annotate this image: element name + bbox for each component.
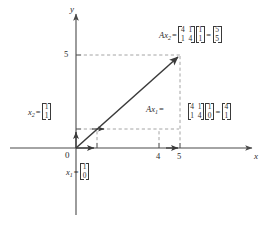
column-vector-x2: 1 1 [42,103,51,120]
equals-sign: = [172,30,177,40]
figure-canvas: y x 0 5 4 5 x2 = 1 1 x1 = 1 0 Ax2 = [0,0,273,235]
equation-ax1-lhs: Ax1 = [146,104,165,114]
y-axis-label: y [70,5,74,14]
equation-lhs-ax2: Ax2 [159,30,171,40]
x-axis-label: x [254,152,258,161]
equals-sign: = [216,107,221,117]
result-vector: 5 5 [213,26,222,43]
equals-sign: = [74,167,79,177]
x-tick-label-4: 4 [156,152,160,161]
equation-lhs-ax1: Ax1 [146,104,158,114]
equals-sign: = [159,104,164,114]
column-vector-x1: 1 0 [80,163,89,180]
equals-sign: = [36,107,41,117]
vector-label-x1: x1 = 1 0 [66,163,90,180]
equation-ax2: Ax2 = 4 1 1 4 1 1 = 5 5 [159,26,222,43]
origin-label: 0 [65,151,70,160]
vector-arrow-ax2 [76,57,178,148]
unit-vector-arrows [76,129,178,148]
vector-label-x2: x2 = 1 1 [28,103,52,120]
vector-name-x1: x1 [66,167,73,177]
matrix-a: 4 1 1 4 [188,103,205,120]
equals-sign: = [206,30,211,40]
result-vector: 4 1 [222,103,231,120]
x-tick-label-5: 5 [177,152,181,161]
equation-ax1-body: 4 1 1 4 1 0 = 4 1 [187,103,231,120]
y-tick-label-5: 5 [64,50,68,59]
matrix-a: 4 1 1 4 [178,26,195,43]
input-vector: 1 0 [205,103,214,120]
vector-name-x2: x2 [28,107,35,117]
input-vector: 1 1 [196,26,205,43]
